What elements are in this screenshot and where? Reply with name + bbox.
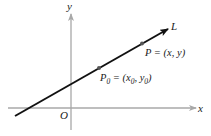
y-axis-label: y — [66, 0, 72, 12]
origin-label: O — [60, 109, 68, 121]
point-p0-label: P0 = (x0, y0) — [99, 72, 152, 86]
x-axis-label: x — [197, 102, 203, 114]
line-l-label: L — [170, 20, 177, 32]
point-p0-dot — [97, 66, 101, 70]
line-l — [15, 29, 168, 116]
diagram-canvas: y x O L P = (x, y) P0 = (x0, y0) — [0, 0, 211, 136]
point-p-dot — [140, 42, 144, 46]
point-p-label: P = (x, y) — [144, 47, 186, 59]
